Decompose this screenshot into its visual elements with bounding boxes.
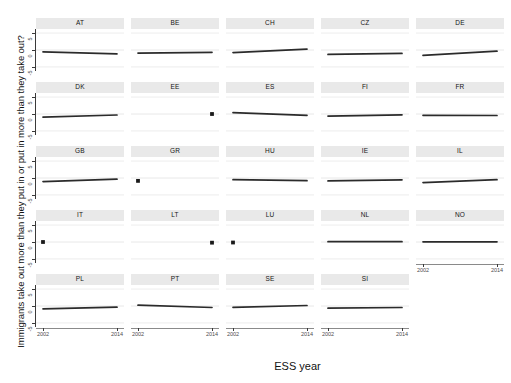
facet-panel-lu: LU: [226, 210, 314, 263]
facet-strip-label: LT: [171, 212, 179, 219]
facet-strip-label: EE: [170, 84, 179, 91]
y-axis-line: [35, 93, 36, 135]
x-tick-label: 2014: [206, 331, 218, 337]
facet-strip-label: IL: [457, 148, 463, 155]
facet-strip-label: NL: [361, 212, 370, 219]
facet-strip-label: SI: [362, 276, 369, 283]
facet-panel-no: NO20022014: [416, 210, 504, 263]
facet-strip-label: IT: [77, 212, 83, 219]
y-tick-label: -5: [27, 322, 33, 336]
facet-panel-be: BE: [131, 18, 219, 71]
panel-plot-area-it: [36, 221, 124, 263]
facet-panel-lt: LT: [131, 210, 219, 263]
facet-strip-label: IE: [362, 148, 369, 155]
facet-panel-se: SE20022014: [226, 274, 314, 327]
y-tick-label: 5: [27, 96, 33, 110]
x-axis-title: ESS year: [0, 360, 511, 372]
facet-strip-no: NO: [416, 210, 504, 221]
panel-plot-area-hu: [226, 157, 314, 199]
facet-strip-nl: NL: [321, 210, 409, 221]
facet-strip-label: PL: [76, 276, 84, 283]
facet-panel-it: IT50-5: [36, 210, 124, 263]
facet-strip-gr: GR: [131, 146, 219, 157]
facet-panel-nl: NL: [321, 210, 409, 263]
x-tick-label: 2002: [417, 267, 429, 273]
panel-plot-area-lu: [226, 221, 314, 263]
y-tick-label: -5: [27, 130, 33, 144]
facet-panel-ee: EE: [131, 82, 219, 135]
facet-panel-fi: FI: [321, 82, 409, 135]
panel-plot-area-no: [416, 221, 504, 263]
facet-strip-label: FR: [455, 84, 464, 91]
facet-strip-label: NO: [455, 212, 465, 219]
x-axis-line: [36, 328, 124, 329]
panel-plot-area-gr: [131, 157, 219, 199]
facet-panel-ie: IE: [321, 146, 409, 199]
facet-strip-se: SE: [226, 274, 314, 285]
facet-strip-label: CH: [265, 20, 275, 27]
facet-strip-label: ES: [265, 84, 274, 91]
facet-strip-be: BE: [131, 18, 219, 29]
x-tick-label: 2014: [111, 331, 123, 337]
x-axis-line: [321, 328, 409, 329]
facet-strip-hu: HU: [226, 146, 314, 157]
y-tick-label: 0: [27, 305, 33, 319]
facet-strip-es: ES: [226, 82, 314, 93]
y-axis-line: [35, 29, 36, 71]
panel-plot-area-pt: [131, 285, 219, 327]
x-tick-label: 2002: [132, 331, 144, 337]
x-tick-label: 2002: [227, 331, 239, 337]
facet-line-chart: Immigrants take out more than they put i…: [0, 0, 511, 383]
panel-plot-area-ee: [131, 93, 219, 135]
x-axis-line: [226, 328, 314, 329]
panel-plot-area-cz: [321, 29, 409, 71]
facet-strip-cz: CZ: [321, 18, 409, 29]
facet-strip-de: DE: [416, 18, 504, 29]
y-tick-label: 5: [27, 160, 33, 174]
facet-strip-si: SI: [321, 274, 409, 285]
panel-plot-area-pl: [36, 285, 124, 327]
panel-plot-area-at: [36, 29, 124, 71]
facet-strip-gb: GB: [36, 146, 124, 157]
facet-strip-pt: PT: [131, 274, 219, 285]
panel-plot-area-ch: [226, 29, 314, 71]
panel-plot-area-de: [416, 29, 504, 71]
panel-plot-area-be: [131, 29, 219, 71]
facet-strip-label: HU: [265, 148, 275, 155]
y-axis-line: [35, 221, 36, 263]
facet-strip-ie: IE: [321, 146, 409, 157]
panel-plot-area-fi: [321, 93, 409, 135]
facet-strip-fi: FI: [321, 82, 409, 93]
facet-strip-label: GR: [170, 148, 180, 155]
facet-strip-label: FI: [362, 84, 368, 91]
facet-strip-label: CZ: [360, 20, 369, 27]
facet-panel-hu: HU: [226, 146, 314, 199]
facet-panel-pt: PT20022014: [131, 274, 219, 327]
facet-panel-at: AT50-5: [36, 18, 124, 71]
panel-plot-area-nl: [321, 221, 409, 263]
facet-strip-at: AT: [36, 18, 124, 29]
x-tick-label: 2002: [37, 331, 49, 337]
y-tick-label: -5: [27, 258, 33, 272]
facet-strip-lu: LU: [226, 210, 314, 221]
facet-panel-gb: GB50-5: [36, 146, 124, 199]
facet-strip-label: AT: [76, 20, 84, 27]
panel-plot-area-ie: [321, 157, 409, 199]
facet-panel-dk: DK50-5: [36, 82, 124, 135]
y-tick-label: 5: [27, 224, 33, 238]
y-tick-label: -5: [27, 194, 33, 208]
panel-plot-area-il: [416, 157, 504, 199]
facet-strip-label: DE: [455, 20, 464, 27]
panel-plot-area-gb: [36, 157, 124, 199]
x-axis-line: [131, 328, 219, 329]
y-tick-label: 0: [27, 241, 33, 255]
facet-panel-si: SI20022014: [321, 274, 409, 327]
panel-plot-area-lt: [131, 221, 219, 263]
x-axis-line: [416, 264, 504, 265]
facet-panel-il: IL: [416, 146, 504, 199]
x-tick-label: 2014: [491, 267, 503, 273]
facet-strip-il: IL: [416, 146, 504, 157]
y-axis-title: Immigrants take out more than they put i…: [15, 2, 26, 382]
x-tick-label: 2014: [301, 331, 313, 337]
panel-plot-area-fr: [416, 93, 504, 135]
